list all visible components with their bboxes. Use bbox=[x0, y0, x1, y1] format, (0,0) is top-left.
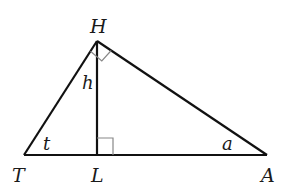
angle-label-a: a bbox=[222, 133, 233, 154]
right-angle-marker-H bbox=[91, 51, 112, 62]
vertex-label-L: L bbox=[90, 164, 104, 186]
triangle-diagram: H T L A h t a bbox=[0, 0, 284, 194]
angle-label-t: t bbox=[43, 133, 51, 154]
altitude-label-h: h bbox=[82, 72, 94, 93]
vertex-label-T: T bbox=[12, 164, 26, 186]
edge-HA bbox=[97, 41, 267, 155]
vertex-label-H: H bbox=[89, 15, 107, 37]
edge-TH bbox=[24, 41, 97, 155]
right-angle-marker-L bbox=[97, 138, 113, 155]
vertex-label-A: A bbox=[259, 164, 275, 186]
